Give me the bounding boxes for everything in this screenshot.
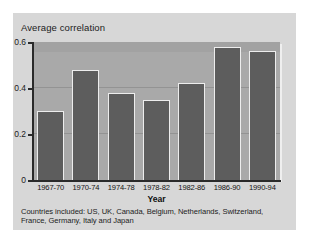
bar-1970-74[interactable] [72,70,99,180]
x-tick-label-1974-78: 1974-78 [104,183,138,192]
bar-1986-90[interactable] [214,47,241,180]
bar-group [214,42,241,180]
bar-group [249,42,276,180]
bar-1978-82[interactable] [143,100,170,181]
bar-group [37,42,64,180]
y-tick-0 [28,180,33,182]
y-tick-label-0: 0 [4,175,26,185]
y-tick-0.4 [28,88,33,90]
y-tick-label-0.4: 0.4 [4,83,26,93]
plot-area [33,42,280,180]
bars-container [33,42,280,180]
x-tick-label-1982-86: 1982-86 [175,183,209,192]
bar-group [108,42,135,180]
bar-group [72,42,99,180]
x-axis-line [32,180,281,182]
y-axis-line [32,42,34,181]
x-tick-label-1967-70: 1967-70 [34,183,68,192]
bar-group [178,42,205,180]
x-tick-label-1970-74: 1970-74 [69,183,103,192]
x-tick-label-1990-94: 1990-94 [245,183,279,192]
x-tick-label-1986-90: 1986-90 [210,183,244,192]
y-tick-label-0.6: 0.6 [4,37,26,47]
x-axis-title: Year [33,194,280,204]
y-tick-0.2 [28,134,33,136]
y-tick-label-0.2: 0.2 [4,129,26,139]
bar-1974-78[interactable] [108,93,135,180]
x-tick-label-1978-82: 1978-82 [139,183,173,192]
footnote: Countries included: US, UK, Canada, Belg… [21,207,287,226]
y-tick-0.6 [28,42,33,44]
y-axis-title: Average correlation [21,22,105,33]
bar-1967-70[interactable] [37,111,64,180]
chart-figure: Average correlation 00.20.40.6 1967-7019… [0,0,309,243]
x-tick-label-group: 1967-701970-741974-781978-821982-861986-… [33,183,280,192]
bar-group [143,42,170,180]
bar-1990-94[interactable] [249,51,276,180]
bar-1982-86[interactable] [178,83,205,180]
